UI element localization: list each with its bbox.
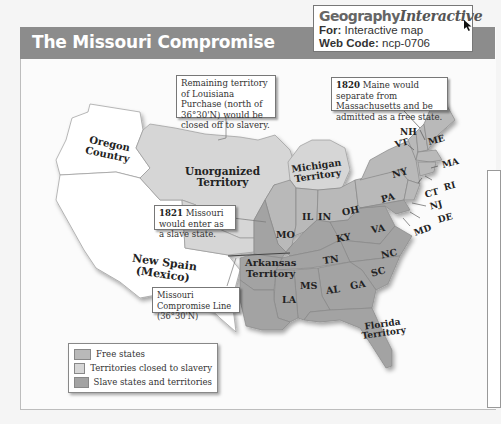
legend-item-territories-closed: Territories closed to slavery [74,361,212,375]
legend-swatch-slave [74,377,89,388]
label-unorganized-territory: UnorganizedTerritory [185,166,260,188]
legend-swatch-free [74,349,91,360]
state-ma [416,150,442,162]
label-la: LA [282,295,296,305]
label-mo: MO [276,230,295,240]
legend-item-free-states: Free states [74,347,212,361]
callout-compromise-line: Missouri Compromise Line (36°30'N) [152,287,240,313]
label-il: IL [302,212,313,222]
callout-maine: 1820 Maine would separate from Massachus… [331,77,448,111]
legend-swatch-closed [74,363,85,374]
map-legend: Free states Territories closed to slaver… [68,343,218,393]
label-ms: MS [300,281,317,291]
label-tn: TN [322,254,339,266]
callout-missouri-year: 1821 [159,208,183,218]
label-nh: NH [400,128,417,137]
callout-louisiana-purchase: Remaining territory of Louisiana Purchas… [176,75,276,118]
callout-missouri: 1821 Missouri would enter as a slave sta… [154,205,236,230]
label-in: IN [318,212,331,222]
state-ct-ri [418,162,436,176]
label-al: AL [325,284,340,296]
callout-maine-year: 1820 [336,80,360,90]
legend-item-slave-states: Slave states and territories [74,375,212,389]
label-arkansas-territory: ArkansasTerritory [245,258,296,279]
